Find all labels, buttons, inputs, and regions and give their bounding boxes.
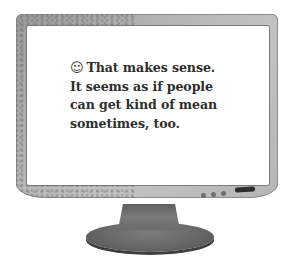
indicator-light-icon xyxy=(221,191,226,196)
message-line-2: It seems as if people xyxy=(70,79,213,94)
monitor-screen: ☺That makes sense.It seems as if peoplec… xyxy=(26,25,270,186)
message-line-1: That makes sense. xyxy=(86,60,215,75)
message-line-3: can get kind of mean xyxy=(70,97,217,112)
computer-monitor: ☺That makes sense.It seems as if peoplec… xyxy=(0,0,289,262)
message-line-4: sometimes, too. xyxy=(70,116,180,131)
power-button-icon xyxy=(235,186,255,192)
indicator-light-icon xyxy=(211,192,216,197)
monitor-stand-neck xyxy=(118,204,180,230)
indicator-light-icon xyxy=(201,193,206,198)
smiley-face-icon: ☺ xyxy=(70,60,83,75)
screen-message: ☺That makes sense.It seems as if peoplec… xyxy=(70,59,260,133)
